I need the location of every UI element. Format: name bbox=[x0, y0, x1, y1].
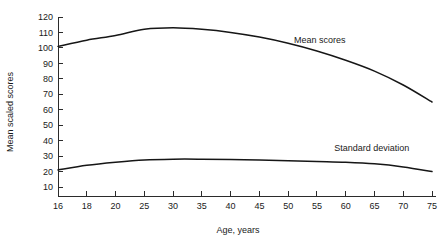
series-annotations: Mean scoresStandard deviation bbox=[294, 35, 409, 153]
y-tick-label: 90 bbox=[43, 59, 53, 69]
x-tick-label: 30 bbox=[168, 201, 178, 211]
x-tick-label: 18 bbox=[82, 201, 92, 211]
x-axis: 1618202530354045505560657075 bbox=[53, 191, 437, 211]
chart-plot-area: 102030405060708090100110120 161820253035… bbox=[0, 0, 443, 248]
y-tick-label: 70 bbox=[43, 89, 53, 99]
y-tick-label: 80 bbox=[43, 74, 53, 84]
x-tick-label: 45 bbox=[254, 201, 264, 211]
y-tick-label: 60 bbox=[43, 105, 53, 115]
x-tick-label: 70 bbox=[398, 201, 408, 211]
x-tick-label: 35 bbox=[197, 201, 207, 211]
x-tick-label: 60 bbox=[341, 201, 351, 211]
x-axis-title: Age, years bbox=[216, 225, 260, 235]
x-axis-ticks bbox=[58, 191, 432, 196]
y-axis-ticks bbox=[58, 17, 63, 187]
y-axis: 102030405060708090100110120 bbox=[38, 12, 63, 196]
x-tick-label: 65 bbox=[369, 201, 379, 211]
x-tick-label: 25 bbox=[139, 201, 149, 211]
x-tick-label: 16 bbox=[53, 201, 63, 211]
x-tick-label: 20 bbox=[111, 201, 121, 211]
x-tick-label: 55 bbox=[312, 201, 322, 211]
series-line-2 bbox=[58, 159, 432, 171]
x-tick-label: 75 bbox=[427, 201, 437, 211]
y-axis-tick-labels: 102030405060708090100110120 bbox=[38, 12, 53, 192]
x-tick-label: 50 bbox=[283, 201, 293, 211]
y-tick-label: 20 bbox=[43, 167, 53, 177]
y-tick-label: 120 bbox=[38, 12, 53, 22]
y-tick-label: 100 bbox=[38, 43, 53, 53]
series-annotation-2: Standard deviation bbox=[334, 143, 409, 153]
series-annotation-1: Mean scores bbox=[294, 35, 346, 45]
y-tick-label: 50 bbox=[43, 120, 53, 130]
series-line-1 bbox=[58, 28, 432, 102]
x-tick-label: 40 bbox=[226, 201, 236, 211]
y-tick-label: 10 bbox=[43, 182, 53, 192]
y-tick-label: 30 bbox=[43, 151, 53, 161]
x-axis-tick-labels: 1618202530354045505560657075 bbox=[53, 201, 437, 211]
chart-figure: 102030405060708090100110120 161820253035… bbox=[0, 0, 443, 248]
y-axis-title: Mean scaled scores bbox=[5, 71, 15, 152]
y-tick-label: 40 bbox=[43, 136, 53, 146]
y-tick-label: 110 bbox=[39, 28, 53, 38]
